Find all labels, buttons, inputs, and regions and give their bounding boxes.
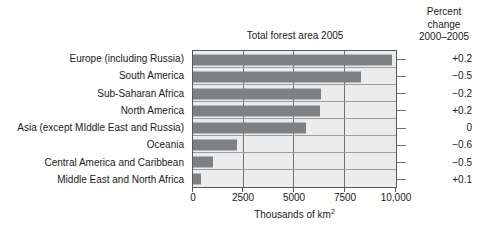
percent-change-row: +0.2	[397, 50, 486, 67]
percent-tick-mark	[397, 93, 406, 94]
x-axis-title-text: Thousands of km	[254, 209, 331, 220]
percent-change-value: −0.5	[452, 157, 472, 168]
x-tick-label: 10,000	[381, 192, 412, 203]
percent-change-value: −0.5	[452, 70, 472, 81]
category-label: Middle East and North Africa	[0, 171, 188, 188]
percent-change-row: +0.2	[397, 102, 486, 119]
bar-row	[193, 136, 396, 153]
bar-rows	[193, 51, 396, 187]
bar-row	[193, 102, 396, 119]
percent-change-row: −0.5	[397, 154, 486, 171]
percent-change-row: −0.2	[397, 85, 486, 102]
bar-oceania	[193, 139, 237, 150]
bar-row	[193, 170, 396, 187]
x-axis-title: Thousands of km2	[192, 209, 397, 220]
category-label: Oceania	[0, 136, 188, 153]
bar-south-america	[193, 71, 361, 82]
percent-tick-mark	[397, 59, 406, 60]
x-tick-label: 7500	[334, 192, 356, 203]
bar-row	[193, 153, 396, 170]
x-axis-title-superscript: 2	[331, 208, 335, 215]
category-axis-labels: Europe (including Russia) South America …	[0, 50, 188, 188]
category-label: South America	[0, 67, 188, 84]
percent-change-values: +0.2 −0.5 −0.2 +0.2 0 −0.6 −0.5 +0.1	[397, 50, 486, 188]
percent-change-value: −0.2	[452, 88, 472, 99]
percent-tick-mark	[397, 179, 406, 180]
percent-change-row: −0.5	[397, 67, 486, 84]
bar-row	[193, 51, 396, 68]
percent-change-value: 0	[466, 122, 472, 133]
x-tick-label: 5000	[283, 192, 305, 203]
percent-change-row: +0.1	[397, 171, 486, 188]
category-label: Central America and Caribbean	[0, 154, 188, 171]
percent-tick-mark	[397, 145, 406, 146]
bar-north-america	[193, 105, 320, 116]
plot-area	[192, 50, 397, 188]
chart-title: Total forest area 2005	[192, 30, 398, 41]
percent-change-row: −0.6	[397, 136, 486, 153]
bar-middle-east-and-north-africa	[193, 173, 201, 184]
bar-central-america-and-caribbean	[193, 156, 213, 167]
category-label: Asia (except MIddle East and Russia)	[0, 119, 188, 136]
bar-row	[193, 85, 396, 102]
percent-tick-mark	[397, 76, 406, 77]
percent-change-header: Percent change 2000–2005	[402, 6, 486, 44]
bar-sub-saharan-africa	[193, 88, 321, 99]
percent-change-header-line-1: Percent	[402, 6, 486, 19]
category-label: Europe (including Russia)	[0, 50, 188, 67]
category-label: North America	[0, 102, 188, 119]
bar-europe-including-russia	[193, 54, 392, 65]
percent-change-value: +0.2	[452, 53, 472, 64]
bar-row	[193, 68, 396, 85]
x-tick-label: 2500	[232, 192, 254, 203]
x-tick-label: 0	[190, 192, 196, 203]
percent-change-header-line-3: 2000–2005	[402, 31, 486, 44]
percent-change-value: +0.2	[452, 105, 472, 116]
percent-tick-mark	[397, 162, 406, 163]
forest-area-chart-figure: Percent change 2000–2005 Total forest ar…	[0, 0, 487, 232]
percent-change-header-line-2: change	[402, 19, 486, 32]
category-label: Sub-Saharan Africa	[0, 85, 188, 102]
percent-tick-mark	[397, 128, 406, 129]
bar-asia-except-middle-east-and-russia	[193, 122, 306, 133]
percent-tick-mark	[397, 110, 406, 111]
percent-change-value: −0.6	[452, 139, 472, 150]
percent-change-row: 0	[397, 119, 486, 136]
bar-row	[193, 119, 396, 136]
percent-change-value: +0.1	[452, 174, 472, 185]
